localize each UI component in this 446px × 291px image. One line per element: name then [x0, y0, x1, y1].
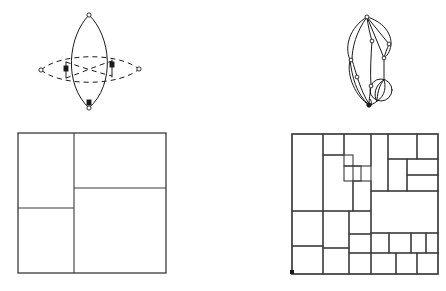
packing-cell-22 — [389, 233, 411, 253]
packing-cell-08 — [388, 134, 417, 159]
vertex-bottom-thick — [87, 100, 91, 105]
packing-cell-04 — [344, 134, 371, 166]
packing-cell-09 — [417, 134, 438, 159]
dashed-arc-upper — [41, 57, 139, 70]
graph-vertex-apex-bottom — [367, 103, 371, 107]
packing-cell-25 — [371, 253, 396, 274]
graph-vertex-lower-mid — [369, 84, 373, 88]
packing-cell-18 — [349, 211, 371, 234]
packing-cell-17 — [323, 248, 349, 274]
packing-cell-27 — [417, 253, 438, 274]
packing-cell-15 — [292, 246, 323, 274]
packing-cell-06 — [353, 181, 371, 211]
panel-top-right-multigraph — [348, 15, 392, 107]
vertex-left-crossing — [64, 66, 68, 71]
packing-cell-12 — [407, 175, 438, 191]
graph-vertex-lower-left — [355, 75, 359, 79]
panel-top-left-vesica — [39, 13, 141, 110]
packing-cell-01 — [292, 134, 323, 211]
vesica-arc-left — [71, 15, 89, 108]
dashed-arc-lower — [41, 69, 139, 82]
origin-marker-icon — [290, 270, 294, 274]
graph-vertex-mid-left — [349, 58, 353, 62]
vertex-right-crossing — [110, 62, 114, 67]
packing-cell-14 — [292, 211, 323, 246]
graph-vertex-mid-right — [382, 56, 386, 60]
figure-canvas — [0, 0, 446, 291]
packing-cell-13 — [371, 191, 438, 233]
packing-cell-26 — [396, 253, 417, 274]
panel-bottom-left-partition — [18, 133, 166, 273]
packing-cell-23 — [411, 233, 426, 253]
graph-edge-midupper-to-lowermid — [371, 41, 372, 86]
packing-cell-19 — [349, 234, 371, 253]
graph-vertex-upper-right — [387, 42, 391, 46]
vertex-top — [87, 13, 91, 17]
vertex-right-tip — [137, 67, 141, 71]
graph-vertex-apex-top — [365, 15, 369, 19]
partition-frame — [18, 133, 166, 273]
packing-cell-20 — [349, 253, 371, 274]
dashed-cross-arc-a — [66, 62, 112, 76]
dashed-cross-arc-b — [66, 61, 112, 78]
graph-edge-left-inner — [352, 17, 367, 60]
vesica-arc-right — [89, 15, 107, 108]
vertex-left-tip — [39, 68, 43, 72]
packing-cell-21 — [371, 233, 389, 253]
packing-cell-02 — [323, 134, 344, 155]
packing-cell-11 — [407, 159, 438, 175]
graph-edge-apex-to-mid-right — [367, 17, 384, 58]
packing-cell-10 — [388, 159, 407, 191]
graph-circle-arc-1 — [375, 80, 384, 101]
packing-cell-03 — [323, 155, 353, 211]
graph-vertex-mid-upper — [370, 39, 374, 43]
panel-bottom-right-packing — [290, 134, 438, 274]
packing-cell-07 — [371, 134, 388, 191]
packing-cell-24 — [426, 233, 438, 253]
packing-cell-16 — [323, 211, 349, 248]
vertex-bottom — [87, 106, 91, 110]
